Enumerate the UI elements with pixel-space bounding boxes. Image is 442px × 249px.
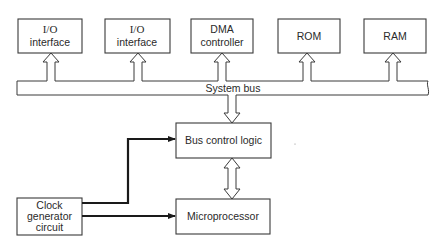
dma-controller-line2: controller: [200, 36, 244, 48]
ram-block: RAM: [364, 19, 426, 53]
bus-arrow-rom: [299, 53, 315, 81]
io-interface-2-line2: interface: [117, 36, 157, 48]
clock-to-bus-control-wire: [82, 139, 175, 203]
io-interface-1-block: I/O interface: [18, 19, 82, 53]
scan-speck: [294, 143, 295, 144]
clock-line3: circuit: [36, 221, 64, 233]
rom-block: ROM: [278, 19, 340, 53]
rom-label: ROM: [297, 30, 322, 42]
bus-arrow-dma: [214, 53, 230, 81]
io-interface-2-line1: I/O: [130, 23, 145, 35]
microprocessor-block: Microprocessor: [176, 199, 270, 234]
bus-arrow-io1: [43, 53, 59, 81]
bus-arrow-ram: [385, 53, 401, 81]
ram-label: RAM: [383, 30, 406, 42]
bus-control-to-microprocessor-arrow: [224, 158, 240, 199]
io-interface-1-line1: I/O: [43, 23, 58, 35]
io-interface-2-block: I/O interface: [105, 19, 170, 53]
dma-controller-line1: DMA: [210, 23, 233, 35]
dma-controller-block: DMA controller: [191, 19, 253, 53]
io-interface-1-line2: interface: [30, 36, 70, 48]
bus-arrow-io2: [130, 53, 146, 81]
bus-control-logic-block: Bus control logic: [176, 123, 271, 158]
microcomputer-block-diagram: I/O interface I/O interface DMA controll…: [0, 0, 442, 249]
bus-to-bus-control-arrow: [224, 95, 240, 123]
system-bus-label: System bus: [206, 82, 261, 94]
bus-control-logic-label: Bus control logic: [185, 134, 262, 146]
clock-generator-block: Clock generator circuit: [17, 198, 82, 235]
microprocessor-label: Microprocessor: [187, 210, 259, 222]
